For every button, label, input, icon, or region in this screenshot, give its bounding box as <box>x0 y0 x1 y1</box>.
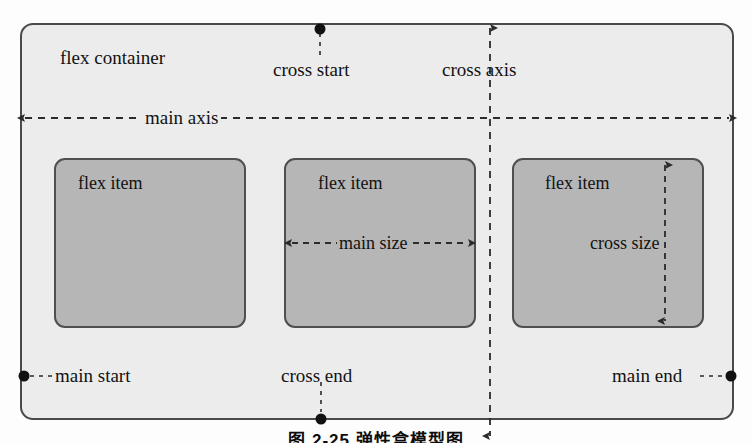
flex-item-2-label: flex item <box>318 174 382 192</box>
cross-end-label: cross end <box>281 366 352 385</box>
cross-start-dot <box>315 24 326 35</box>
cross-size-label: cross size <box>588 234 661 252</box>
main-size-label: main size <box>337 234 409 252</box>
cross-end-dot <box>316 414 327 425</box>
main-axis-label: main axis <box>142 108 221 127</box>
main-start-label: main start <box>55 366 130 385</box>
cross-axis-label: cross axis <box>442 60 516 79</box>
flex-item-1-label: flex item <box>78 174 142 192</box>
cross-start-label: cross start <box>273 60 350 79</box>
flex-item-3-label: flex item <box>545 174 609 192</box>
main-end-dot <box>726 371 737 382</box>
main-start-dot <box>19 371 30 382</box>
flex-container-label: flex container <box>60 48 165 67</box>
flexbox-model-figure: flex container cross start cross axis ma… <box>0 0 752 443</box>
main-end-label: main end <box>612 366 682 385</box>
figure-caption: 图 2-25 弹性盒模型图 <box>0 426 752 443</box>
